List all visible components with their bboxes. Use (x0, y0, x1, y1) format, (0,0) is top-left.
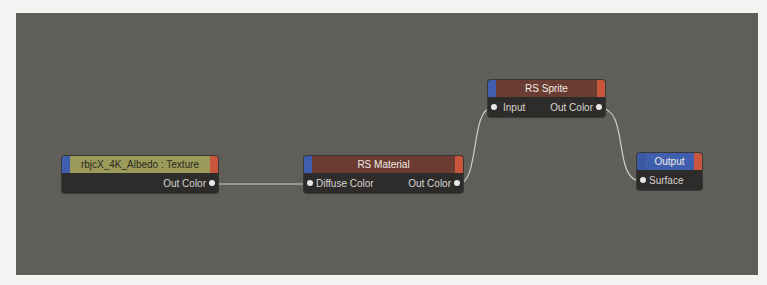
port-row: Input Out Color (488, 97, 605, 117)
port-label: Out Color (408, 178, 451, 189)
input-port-surface[interactable] (640, 177, 646, 183)
output-node-header[interactable]: Output (637, 153, 702, 170)
port-label: Input (503, 102, 525, 113)
input-cap (637, 153, 645, 170)
sprite-node-header[interactable]: RS Sprite (488, 80, 605, 97)
port-row: Diffuse Color Out Color (304, 173, 463, 193)
output-port-out-color[interactable] (596, 104, 602, 110)
port-label: Surface (649, 175, 683, 186)
port-label: Diffuse Color (316, 178, 374, 189)
node-title: RS Sprite (525, 83, 568, 94)
material-node-header[interactable]: RS Material (304, 156, 463, 173)
texture-node-header[interactable]: rbjcX_4K_Albedo : Texture (62, 156, 218, 173)
port-label: Out Color (163, 178, 206, 189)
input-port-diffuse-color[interactable] (307, 180, 313, 186)
node-title: rbjcX_4K_Albedo : Texture (81, 159, 199, 170)
node-editor-canvas[interactable] (16, 13, 758, 275)
output-port-out-color[interactable] (454, 180, 460, 186)
rs-sprite-node[interactable]: RS Sprite Input Out Color (488, 80, 605, 117)
output-node[interactable]: Output Surface (637, 153, 702, 190)
output-cap (597, 80, 605, 97)
input-cap (488, 80, 496, 97)
input-cap (62, 156, 70, 173)
output-port-out-color[interactable] (209, 180, 215, 186)
rs-material-node[interactable]: RS Material Diffuse Color Out Color (304, 156, 463, 193)
port-label: Out Color (550, 102, 593, 113)
output-cap (694, 153, 702, 170)
output-cap (455, 156, 463, 173)
node-title: RS Material (357, 159, 409, 170)
node-title: Output (654, 156, 684, 167)
input-port-input[interactable] (491, 104, 497, 110)
input-cap (304, 156, 312, 173)
port-row-out-color: Out Color (62, 173, 218, 193)
output-cap (210, 156, 218, 173)
texture-node[interactable]: rbjcX_4K_Albedo : Texture Out Color (62, 156, 218, 193)
port-row: Surface (637, 170, 702, 190)
